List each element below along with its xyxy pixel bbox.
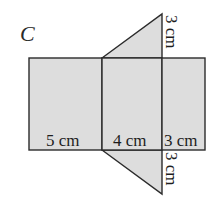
- label-4cm: 4 cm: [113, 131, 147, 150]
- figure-label: C: [20, 21, 35, 46]
- prism-net-diagram: C 5 cm 4 cm 3 cm 3 cm 3 cm: [0, 0, 215, 205]
- label-top-triangle-3cm: 3 cm: [162, 15, 181, 49]
- label-5cm: 5 cm: [46, 131, 80, 150]
- label-bottom-triangle-3cm: 3 cm: [162, 152, 181, 186]
- label-3cm: 3 cm: [164, 131, 198, 150]
- bottom-triangle: [102, 150, 162, 194]
- top-triangle: [102, 14, 162, 58]
